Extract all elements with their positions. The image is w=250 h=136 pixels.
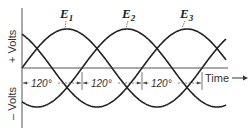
y-positive-label: + Volts: [6, 29, 18, 63]
y-negative-label: – Volts: [6, 86, 18, 120]
label-e2: E2: [121, 6, 136, 28]
x-axis-label: Time: [205, 72, 229, 84]
svg-text:E1: E1: [59, 6, 73, 23]
label-e1: E1: [59, 6, 73, 28]
svg-text:120°: 120°: [31, 78, 52, 89]
three-phase-diagram: + Volts – Volts Time E1 E2 E3 120° 120°: [0, 0, 250, 136]
label-e3: E3: [179, 6, 194, 28]
svg-text:E2: E2: [121, 6, 136, 23]
time-arrow-icon: [232, 76, 248, 81]
svg-text:E3: E3: [179, 6, 194, 23]
svg-text:120°: 120°: [151, 78, 172, 89]
svg-text:120°: 120°: [91, 78, 112, 89]
